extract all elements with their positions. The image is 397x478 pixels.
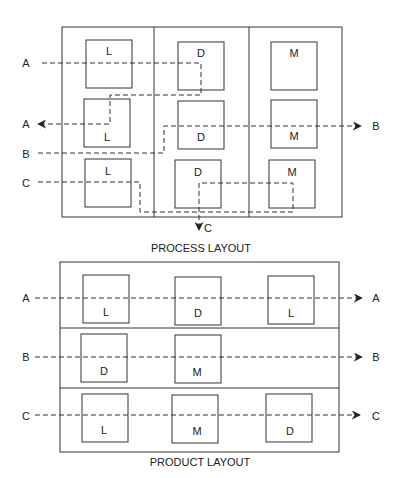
machine-label: L [101, 424, 107, 436]
machine-label: D [197, 47, 205, 59]
machine-label: L [103, 306, 109, 318]
machine-label: L [105, 165, 111, 177]
machine-label: L [104, 131, 110, 143]
machine-label: D [197, 131, 205, 143]
flow-label-in: A [22, 57, 30, 69]
machine-label: D [194, 307, 202, 319]
process-layout-caption: PROCESS LAYOUT [151, 242, 251, 254]
line-label-in: B [22, 351, 29, 363]
line-label-out: A [372, 292, 380, 304]
machine-label: D [194, 166, 202, 178]
line-label-out: C [372, 410, 380, 422]
flow-label-in: C [22, 177, 30, 189]
machine-label: M [192, 425, 201, 437]
layout-diagram: L L L D D D M M M A A B B C C PROCESS LA… [0, 0, 397, 478]
machine-label: M [289, 130, 298, 142]
flow-path-c [38, 182, 293, 230]
machine-label: M [287, 166, 296, 178]
machine-label: D [286, 425, 294, 437]
line-label-in: C [22, 410, 30, 422]
machine-label: L [106, 45, 112, 57]
flow-label-out: A [22, 118, 30, 130]
machine-label: L [288, 307, 294, 319]
flow-label-in: B [22, 148, 29, 160]
machine-label: M [289, 47, 298, 59]
machine-label: M [192, 366, 201, 378]
product-machine-labels: L D L D M L M D A A B B C C PRODUCT LAYO… [22, 292, 380, 468]
product-layout-caption: PRODUCT LAYOUT [150, 456, 251, 468]
flow-label-out: C [204, 222, 212, 234]
flow-label-out: B [372, 120, 379, 132]
line-label-out: B [372, 351, 379, 363]
line-label-in: A [22, 292, 30, 304]
machine-label: D [100, 365, 108, 377]
